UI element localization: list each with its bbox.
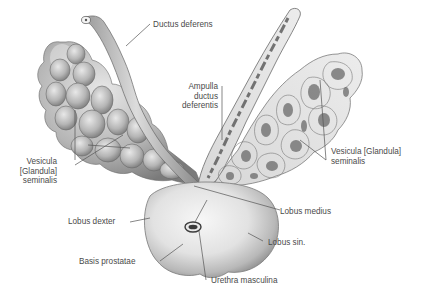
label-lobus-sinister: Lobus sin. [268, 238, 305, 248]
prostate [144, 182, 278, 278]
label-lobus-medius: Lobus medius [280, 207, 331, 217]
label-lobus-dexter: Lobus dexter [68, 217, 115, 227]
label-ductus-deferens: Ductus deferens [153, 20, 213, 30]
label-urethra-masculina: Urethra masculina [211, 276, 277, 286]
label-ampulla-ductus-deferentis: Ampulla ductus deferentis [180, 82, 218, 111]
label-vesicula-seminalis-left: Vesicula [Glandula] seminalis [16, 157, 57, 186]
label-basis-prostatae: Basis prostatae [79, 257, 135, 267]
label-vesicula-seminalis-right: Vesicula [Glandula] seminalis [331, 147, 401, 166]
